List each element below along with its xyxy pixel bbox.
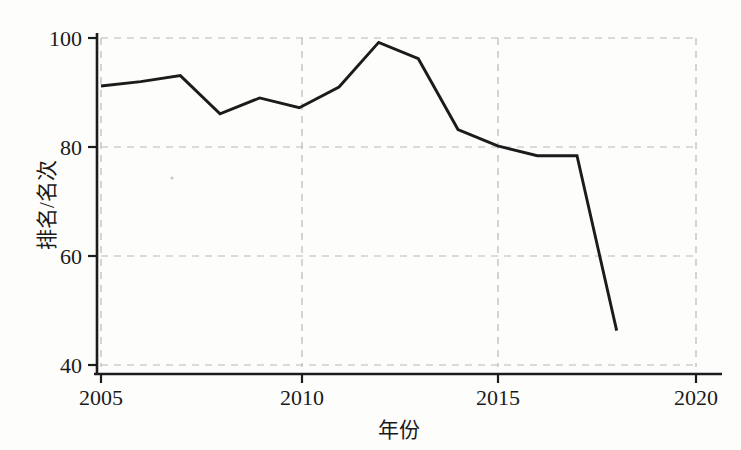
x-axis-tick-label-2020: 2020 — [674, 385, 718, 410]
chart-page: 100 80 60 40 2005 2010 2015 2020 年份 排名/名… — [0, 0, 741, 450]
y-axis-tick-label-100: 100 — [49, 26, 82, 51]
scan-speck — [170, 176, 173, 179]
y-tick-marks — [88, 38, 97, 365]
y-axis-title: 排名/名次 — [35, 160, 59, 250]
x-axis-title: 年份 — [378, 418, 420, 442]
y-axis-tick-label-80: 80 — [60, 135, 82, 160]
y-axis-tick-label-60: 60 — [60, 244, 82, 269]
x-axis-tick-label-2010: 2010 — [280, 385, 324, 410]
y-axis-tick-label-40: 40 — [60, 353, 82, 378]
x-axis-tick-label-2005: 2005 — [79, 385, 123, 410]
x-tick-marks — [101, 374, 696, 383]
plot-area-background — [101, 38, 696, 367]
line-chart: 100 80 60 40 2005 2010 2015 2020 年份 排名/名… — [0, 0, 741, 450]
x-axis-tick-label-2015: 2015 — [476, 385, 520, 410]
